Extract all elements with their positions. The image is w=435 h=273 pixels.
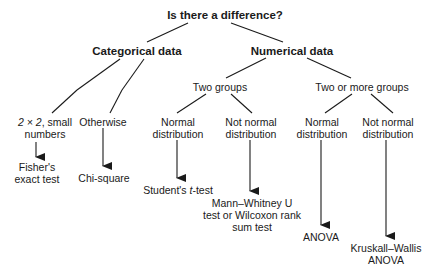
numerical-label: Numerical data [251,45,333,57]
exact-test-label: exact test [15,173,60,185]
node-categorical-data: Categorical data [92,45,181,57]
node-two-not-normal-distribution: Not normal distribution [225,116,276,140]
distribution-label: distribution [225,128,276,140]
fishers-label: Fisher's [15,161,60,173]
kruskal-wallis-label: Kruskall–Wallis [351,242,422,254]
normal-label: Normal [297,116,348,128]
node-more-not-normal-distribution: Not normal distribution [362,116,413,140]
anova-label: ANOVA [351,254,422,266]
two-or-more-groups-label: Two or more groups [315,81,408,93]
anova-label: ANOVA [303,231,339,243]
two-by-two-label: 2 × 2 [18,116,42,128]
two-groups-label: Two groups [193,81,247,93]
node-students-t-test: Student's t-test [143,184,213,196]
distribution-label: distribution [297,128,348,140]
root-label: Is there a difference? [167,9,283,21]
node-more-normal-distribution: Normal distribution [297,116,348,140]
node-2x2-small-numbers: 2 × 2, small numbers [18,116,72,140]
node-mann-whitney: Mann–Whitney U test or Wilcoxon rank sum… [203,197,301,233]
node-chi-square: Chi-square [78,172,129,184]
students-label: Student's [143,184,189,196]
small-line1: 2 × 2, small [18,116,72,128]
node-two-groups: Two groups [193,81,247,93]
categorical-label: Categorical data [92,45,181,57]
node-fishers-exact-test: Fisher's exact test [15,161,60,185]
edge-root-categorical [147,23,188,42]
sum-test-label: sum test [203,221,301,233]
node-numerical-data: Numerical data [251,45,333,57]
distribution-label: distribution [362,128,413,140]
otherwise-label: Otherwise [79,116,126,128]
normal-label: Normal [153,116,204,128]
edge-root-numerical [231,23,283,42]
node-anova: ANOVA [303,231,339,243]
not-normal-label: Not normal [225,116,276,128]
node-two-or-more-groups: Two or more groups [315,81,408,93]
numbers-label: numbers [18,128,72,140]
not-normal-label: Not normal [362,116,413,128]
distribution-label: distribution [153,128,204,140]
small-label: , small [42,116,72,128]
test-label: -test [192,184,212,196]
wilcoxon-label: test or Wilcoxon rank [203,209,301,221]
node-two-normal-distribution: Normal distribution [153,116,204,140]
node-kruskal-wallis: Kruskall–Wallis ANOVA [351,242,422,266]
chi-square-label: Chi-square [78,172,129,184]
node-otherwise: Otherwise [79,116,126,128]
root-question: Is there a difference? [167,9,283,21]
mann-whitney-label: Mann–Whitney U [203,197,301,209]
